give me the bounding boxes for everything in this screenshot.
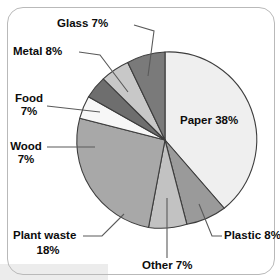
slice-label-plant-waste-name: Plant waste [13, 229, 76, 242]
slice-label-other: Other 7% [142, 259, 193, 272]
slice-label-paper: Paper 38% [180, 114, 238, 127]
slice-label-wood-value: 7% [3, 153, 49, 166]
slice-label-plastic: Plastic 8% [224, 229, 280, 242]
pie-chart-page: Paper 38% Glass 7% Metal 8% Food 7% Wood… [0, 0, 280, 280]
slice-label-glass: Glass 7% [57, 17, 108, 30]
slice-label-food-name: Food [8, 92, 50, 105]
slice-label-food-value: 7% [8, 105, 50, 118]
slice-label-wood-name: Wood [3, 140, 49, 153]
slice-label-plant-waste-value: 18% [13, 244, 83, 257]
leader-line-plant-waste [83, 214, 124, 236]
slice-label-metal: Metal 8% [13, 45, 62, 58]
